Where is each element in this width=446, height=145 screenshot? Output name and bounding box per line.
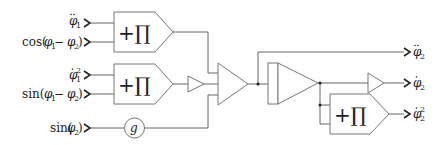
svg-text:+∏: +∏ xyxy=(118,73,151,97)
input-port-icon xyxy=(84,90,90,98)
output-phi2-dot-squared: φ 2 2 xyxy=(404,105,425,123)
output-phi2-ddot: φ 2 xyxy=(404,45,425,61)
svg-text:): ) xyxy=(78,35,83,49)
coefficient-g-block: g xyxy=(125,118,145,138)
input-port-icon xyxy=(84,19,90,27)
input-sin-phi1-minus-phi2: sin( φ 1 − φ 2 ) xyxy=(22,87,90,103)
svg-text:2: 2 xyxy=(420,105,425,114)
svg-text:): ) xyxy=(78,87,83,101)
svg-text:2: 2 xyxy=(420,52,425,61)
multiplier-block-3: +∏ xyxy=(330,94,389,134)
svg-text:1: 1 xyxy=(76,75,81,84)
analog-computer-diagram: φ 1 cos( φ 1 − φ 2 ) φ 1 2 sin( φ 1 − φ … xyxy=(0,0,446,145)
output-port-icon xyxy=(404,110,410,118)
svg-text:2: 2 xyxy=(420,114,425,123)
svg-text:2: 2 xyxy=(76,66,81,75)
output-phi2-dot: φ 2 xyxy=(404,76,425,92)
output-port-icon xyxy=(404,48,410,56)
input-cos-phi1-minus-phi2: cos( φ 1 − φ 2 ) xyxy=(22,35,90,51)
svg-text:−: − xyxy=(54,87,64,101)
summer-block xyxy=(218,63,248,105)
multiplier-block-2: +∏ xyxy=(114,64,173,104)
input-port-icon xyxy=(84,38,90,46)
svg-text:+∏: +∏ xyxy=(334,103,367,127)
svg-text:2: 2 xyxy=(420,83,425,92)
input-phi1-dot-squared: φ 1 2 xyxy=(69,66,90,84)
integrator-block-2 xyxy=(368,73,384,93)
multiplier-block-1: +∏ xyxy=(114,12,173,52)
output-port-icon xyxy=(404,79,410,87)
integrator-block-1 xyxy=(268,63,318,104)
svg-text:g: g xyxy=(130,121,138,135)
input-phi1-ddot: φ 1 xyxy=(69,14,90,30)
svg-text:−: − xyxy=(54,35,64,49)
junction-node xyxy=(257,83,260,86)
svg-text:): ) xyxy=(78,121,83,135)
svg-text:+∏: +∏ xyxy=(118,21,151,45)
input-sin-phi2: sin( φ 2 ) xyxy=(50,121,90,137)
input-port-icon xyxy=(84,124,90,132)
junction-node xyxy=(319,104,322,107)
svg-text:sin(: sin( xyxy=(22,87,44,101)
svg-text:1: 1 xyxy=(76,21,81,30)
input-port-icon xyxy=(84,71,90,79)
gain-block xyxy=(188,76,204,92)
